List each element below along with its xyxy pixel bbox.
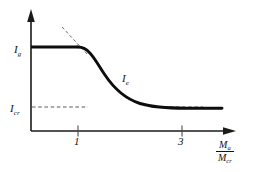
ie-subscript: e: [126, 79, 129, 87]
icr-subscript: cr: [14, 109, 20, 117]
moment-ratio-fraction: Ma Mcr: [216, 140, 234, 163]
ig-subscript: g: [18, 50, 22, 58]
y-axis-arrow-icon: [27, 9, 35, 22]
fraction-denominator: Mcr: [216, 152, 234, 163]
x-tick-label-1: 1: [74, 136, 80, 147]
ma-subscript: a: [227, 144, 230, 151]
curve-label-ie: Ie: [122, 69, 129, 85]
x-axis-arrow-icon: [223, 127, 236, 135]
chart-figure: Ig Icr Ie 1 3 Ma Mcr: [0, 0, 254, 172]
tangent-dashed-line: [62, 27, 88, 55]
ie-curve: [78, 47, 222, 108]
x-tick-label-3: 3: [178, 136, 184, 147]
x-axis-label: Ma Mcr: [216, 140, 234, 164]
fraction-numerator: Ma: [216, 140, 234, 151]
mcr-subscript: cr: [226, 157, 231, 164]
y-label-ig: Ig: [14, 40, 21, 56]
y-label-icr: Icr: [10, 99, 20, 115]
